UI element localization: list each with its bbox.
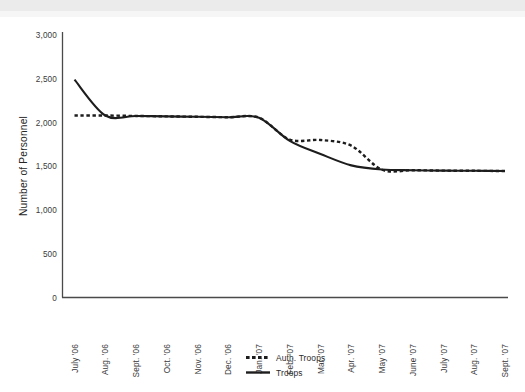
series-line-auth-troops: [75, 115, 506, 171]
x-axis-tick-label: Nov. '06: [194, 344, 203, 375]
legend-label-troops: Troops: [276, 368, 303, 378]
y-axis-title: Number of Personnel: [18, 116, 29, 216]
x-axis-tick-label: Dec. '06: [224, 344, 233, 375]
y-axis-tick-label: 3,000: [36, 31, 58, 40]
x-axis-tick-label: Aug. '06: [101, 344, 110, 375]
x-axis-tick-label: May '07: [378, 344, 387, 374]
y-axis-tick-label: 2,000: [36, 119, 58, 128]
chart-figure: 05001,0001,5002,0002,5003,000 July '06Au…: [0, 0, 525, 392]
y-axis-tick-labels: 05001,0001,5002,0002,5003,000: [36, 31, 58, 303]
x-axis-tick-label: Aug. '07: [470, 344, 479, 375]
x-axis-tick-label: Sept. '07: [501, 344, 510, 378]
y-axis-tick-label: 1,000: [36, 206, 58, 215]
series-line-troops: [75, 80, 506, 171]
y-axis-tick-label: 500: [43, 250, 57, 259]
x-axis-tick-label: Apr. '07: [347, 344, 356, 373]
y-axis-tick-label: 0: [52, 294, 57, 303]
x-axis-tick-label: June '07: [409, 344, 418, 376]
y-axis-tick-label: 2,500: [36, 75, 58, 84]
line-chart: 05001,0001,5002,0002,5003,000 July '06Au…: [0, 0, 525, 392]
legend-label-auth-troops: Auth. Troops: [276, 353, 325, 363]
x-axis-tick-label: July '06: [71, 344, 80, 373]
x-axis-tick-label: July '07: [440, 344, 449, 373]
x-axis-tick-label: Oct. '06: [163, 344, 172, 373]
y-axis-tick-label: 1,500: [36, 162, 58, 171]
x-axis-tick-label: Sept. '06: [132, 344, 141, 378]
